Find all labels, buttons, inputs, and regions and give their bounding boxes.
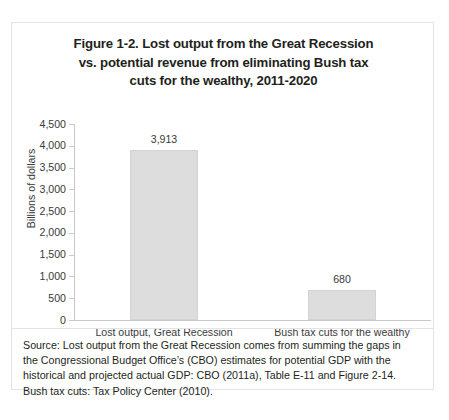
bar-2[interactable] [308,290,376,320]
y-axis-tick-label: 1,500 [14,249,66,260]
y-axis-tick-label: 3,000 [14,184,66,195]
y-axis-tick-label: 0 [14,315,66,326]
y-axis-tick-labels: 4,5004,0003,5003,0002,5002,0001,5001,000… [12,23,66,328]
source-note-line-2: the Congressional Budget Office’s (CBO) … [23,353,423,368]
y-axis-tick-label: 4,500 [14,119,66,130]
y-axis-tick-label: 3,500 [14,162,66,173]
source-divider [12,328,433,329]
plot-area: Billions of dollars 4,5004,0003,5003,000… [12,23,433,328]
figure-container: Figure 1-2. Lost output from the Great R… [11,22,434,390]
y-axis-tick-label: 2,500 [14,206,66,217]
bar-value-label-1: 3,913 [104,134,224,145]
y-axis-line [74,124,75,320]
source-note-line-3: historical and projected actual GDP: CBO… [23,368,423,383]
y-axis-tick-label: 1,000 [14,271,66,282]
bar-value-label-2: 680 [282,274,402,285]
y-axis-tick-label: 500 [14,293,66,304]
source-note-line-4: Bush tax cuts: Tax Policy Center (2010). [23,384,423,399]
bar-1[interactable] [130,150,198,320]
source-note: Source: Lost output from the Great Reces… [23,338,423,399]
x-axis-line [74,320,431,321]
source-note-line-1: Source: Lost output from the Great Reces… [23,338,423,353]
y-axis-tick-label: 4,000 [14,140,66,151]
y-axis-tick-label: 2,000 [14,227,66,238]
